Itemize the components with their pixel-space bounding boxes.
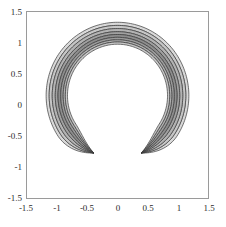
- x-tick-label-6: 1.5: [197, 204, 221, 213]
- y-tick-label-4: -0.5: [2, 132, 22, 141]
- y-tick-label-6: -1.5: [2, 194, 22, 203]
- x-tick-label-4: 0.5: [136, 204, 160, 213]
- x-tick-label-0: -1.5: [14, 204, 38, 213]
- y-tick-label-2: 0.5: [4, 70, 22, 79]
- contour-figure: 1.5 1 0.5 0 -0.5 -1 -1.5 -1.5 -1 -0.5 0 …: [0, 0, 226, 227]
- y-tick-label-3: 0: [4, 101, 22, 110]
- x-tick-label-1: -1: [45, 204, 69, 213]
- x-tick-label-3: 0: [106, 204, 130, 213]
- y-tick-label-0: 1.5: [4, 8, 22, 17]
- y-tick-label-5: -1: [2, 163, 22, 172]
- y-tick-label-1: 1: [4, 39, 22, 48]
- contour-plot-canvas: [0, 0, 226, 227]
- x-tick-label-5: 1: [167, 204, 191, 213]
- x-tick-label-2: -0.5: [75, 204, 99, 213]
